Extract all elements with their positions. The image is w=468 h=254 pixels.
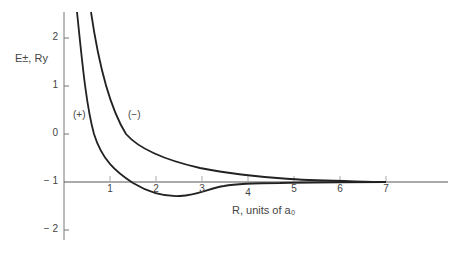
y-tick-label-neg1: − 1	[38, 175, 58, 186]
x-tick-label-1: 1	[103, 183, 117, 194]
x-axis-label: R, units of a₀	[232, 204, 295, 216]
y-ticks	[64, 38, 69, 230]
x-tick-label-4: 4	[241, 187, 255, 198]
y-axis-label: E±, Ry	[15, 52, 48, 64]
y-tick-label-neg2: − 2	[38, 223, 58, 234]
x-tick-label-3: 3	[195, 183, 209, 194]
y-tick-label-1: 1	[38, 79, 58, 90]
y-tick-label-0: 0	[38, 127, 58, 138]
curve-plus	[77, 12, 386, 196]
x-tick-label-5: 5	[287, 183, 301, 194]
x-tick-label-7: 7	[379, 183, 393, 194]
x-tick-label-2: 2	[149, 183, 163, 194]
x-tick-label-6: 6	[333, 183, 347, 194]
curve-minus	[91, 12, 386, 182]
y-tick-label-2: 2	[38, 31, 58, 42]
curve-label-plus: (+)	[73, 109, 86, 120]
curve-label-minus: (−)	[128, 109, 141, 120]
